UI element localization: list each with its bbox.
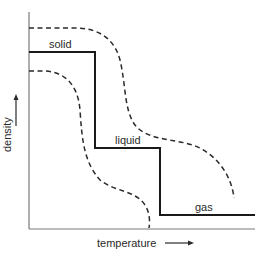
right-arrow-icon (165, 241, 194, 246)
diagram-canvas (0, 0, 267, 257)
lower-dashed-curve (29, 71, 150, 228)
up-arrow-icon (14, 94, 19, 126)
solid-label: solid (49, 39, 72, 50)
upper-dashed-curve (29, 28, 234, 198)
y-axis-label: density (2, 117, 13, 152)
liquid-label: liquid (115, 135, 141, 146)
gas-label: gas (195, 202, 213, 213)
phase-diagram: solid liquid gas temperature density (0, 0, 267, 257)
x-axis-label: temperature (97, 238, 156, 249)
